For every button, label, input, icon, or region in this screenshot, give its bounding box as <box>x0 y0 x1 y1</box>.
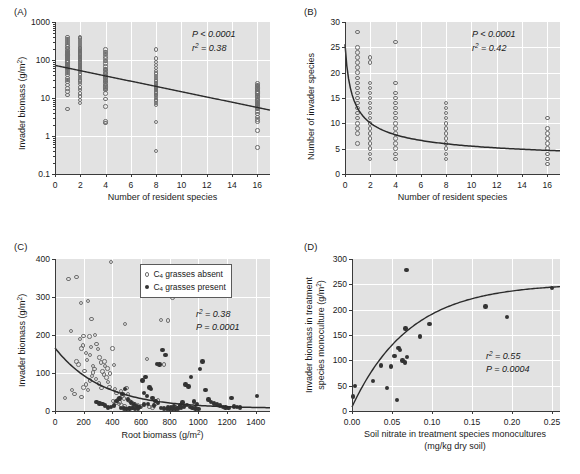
panel-d-label: (D) <box>304 241 318 252</box>
x-tick-label: 6 <box>419 180 424 190</box>
panel-a-p-value: P < 0.0001 <box>192 28 235 41</box>
y-tick-label: 50 <box>314 381 347 391</box>
y-tick-label: 150 <box>314 330 347 340</box>
panel-c-r2-value: r2 = 0.38 <box>196 307 239 321</box>
y-tick-label: 0 <box>307 169 340 179</box>
y-tick-label: 100 <box>17 55 50 65</box>
y-tick-label: 15 <box>307 93 340 103</box>
x-tick-label: 0.15 <box>464 417 481 427</box>
x-tick-label: 0 <box>343 180 348 190</box>
fit-curve <box>345 22 560 174</box>
panel-b-x-axis-line <box>345 174 560 175</box>
panel-c-x-axis-title: Root biomass (g/m2) <box>55 429 270 440</box>
x-tick-label: 12 <box>202 180 211 190</box>
panel-b-label: (B) <box>304 6 317 17</box>
x-tick-label: 1400 <box>246 417 265 427</box>
x-tick-label: 2 <box>78 180 83 190</box>
panel-d-plot-area <box>352 259 560 411</box>
panel-d-y-axis-line <box>352 259 353 411</box>
x-tick-label: 400 <box>105 417 119 427</box>
x-tick-label: 0 <box>53 180 58 190</box>
x-tick-label: 4 <box>393 180 398 190</box>
x-tick-label: 8 <box>154 180 159 190</box>
y-tick-label: 100 <box>314 355 347 365</box>
panel-d-x-axis-line1: Soil nitrate in treatment species monocu… <box>364 429 546 439</box>
panel-b-x-axis-title: Number of resident species <box>345 192 560 202</box>
panel-c-label: (C) <box>14 241 28 252</box>
y-tick-label: 100 <box>17 368 50 378</box>
legend-label-present: C4 grasses present <box>153 281 225 294</box>
panel-c-y-axis-line <box>55 259 56 411</box>
panel-d-x-axis-line2: (mg/kg dry soil) <box>424 441 486 451</box>
panel-a-plot-area <box>55 22 270 174</box>
panel-d-x-axis-line <box>352 411 560 412</box>
y-tick-label: 0 <box>314 406 347 416</box>
y-tick-label: 30 <box>307 17 340 27</box>
x-tick-label: 200 <box>77 417 91 427</box>
panel-a-x-axis-title: Number of resident species <box>55 192 270 202</box>
x-tick-label: 2 <box>368 180 373 190</box>
x-tick-label: 0.00 <box>344 417 361 427</box>
panel-b-y-axis-line <box>345 22 346 174</box>
panel-b-p-value: P < 0.0001 <box>472 28 515 41</box>
panel-c-p-value: P = 0.0001 <box>196 321 239 334</box>
x-tick-label: 1000 <box>189 417 208 427</box>
panel-d-x-axis-title: Soil nitrate in treatment species monocu… <box>330 429 580 452</box>
panel-d-stats: r2 = 0.55 P = 0.0004 <box>486 349 529 376</box>
x-tick-label: 0.20 <box>504 417 521 427</box>
panel-d-y-axis-line1: Invader biomass in treatment <box>304 277 314 393</box>
x-tick-label: 800 <box>163 417 177 427</box>
open-circle-icon <box>145 272 149 276</box>
y-tick-label: 300 <box>314 254 347 264</box>
panel-d-r2-value: r2 = 0.55 <box>486 349 529 363</box>
panel-d-p-value: P = 0.0004 <box>486 363 529 376</box>
x-tick-label: 6 <box>129 180 134 190</box>
figure-panel-grid: (A) Invader biomass (g/m2) Number of res… <box>0 0 580 474</box>
legend-item-present: C4 grasses present <box>145 281 226 294</box>
legend-item-absent: C4 grasses absent <box>145 268 226 281</box>
x-tick-label: 0 <box>53 417 58 427</box>
panel-a-r2-value: r2 = 0.38 <box>192 41 235 55</box>
panel-a-x-axis-line <box>55 174 270 175</box>
x-tick-label: 0.05 <box>384 417 401 427</box>
y-tick-label: 1 <box>17 131 50 141</box>
panel-d: (D) Invader biomass in treatment species… <box>290 237 580 474</box>
y-tick-label: 0.1 <box>17 169 50 179</box>
panel-a-label: (A) <box>14 6 27 17</box>
x-tick-label: 600 <box>134 417 148 427</box>
panel-a-y-axis-line <box>55 22 56 174</box>
x-tick-label: 10 <box>467 180 476 190</box>
y-tick-label: 10 <box>17 93 50 103</box>
panel-c-x-axis-line <box>55 411 270 412</box>
x-tick-label: 8 <box>444 180 449 190</box>
legend-label-absent: C4 grasses absent <box>153 268 223 281</box>
x-tick-label: 0.25 <box>544 417 561 427</box>
fit-curve <box>352 259 560 411</box>
y-tick-label: 400 <box>17 254 50 264</box>
panel-b-r2-value: r2 = 0.42 <box>472 41 515 55</box>
y-tick-label: 5 <box>307 144 340 154</box>
x-tick-label: 14 <box>517 180 526 190</box>
y-tick-label: 200 <box>17 330 50 340</box>
panel-c-legend: C4 grasses absent C4 grasses present <box>140 264 232 298</box>
x-tick-label: 4 <box>103 180 108 190</box>
y-tick-label: 25 <box>307 42 340 52</box>
panel-b-stats: P < 0.0001 r2 = 0.42 <box>472 28 515 55</box>
panel-c: (C) Invader biomass (g/m2) Root biomass … <box>0 237 290 474</box>
x-tick-label: 12 <box>492 180 501 190</box>
y-tick-label: 200 <box>314 305 347 315</box>
x-tick-label: 16 <box>253 180 262 190</box>
x-tick-label: 0.10 <box>424 417 441 427</box>
panel-b-plot-area <box>345 22 560 174</box>
y-tick-label: 300 <box>17 292 50 302</box>
x-tick-label: 16 <box>543 180 552 190</box>
panel-b: (B) Number of invader species Number of … <box>290 0 580 237</box>
x-tick-label: 10 <box>177 180 186 190</box>
panel-c-stats: r2 = 0.38 P = 0.0001 <box>196 307 239 334</box>
panel-a-stats: P < 0.0001 r2 = 0.38 <box>192 28 235 55</box>
fit-curve <box>55 22 270 174</box>
y-tick-label: 20 <box>307 68 340 78</box>
x-tick-label: 1200 <box>218 417 237 427</box>
y-tick-label: 250 <box>314 279 347 289</box>
filled-circle-icon <box>145 285 149 289</box>
